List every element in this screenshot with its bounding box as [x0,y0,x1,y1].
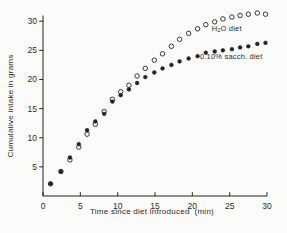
y-tick-label: 5 [32,162,37,172]
sacch-data-point [85,128,89,132]
x-tick-label: 0 [41,201,46,211]
sacch-data-point [119,93,123,97]
h2o-data-point [255,11,260,16]
sacch-data-point [143,75,147,79]
sacch-data-point [111,100,115,104]
h2o-data-point [127,83,132,88]
sacch-data-point [49,182,53,186]
y-tick-label: 25 [28,45,38,55]
sacch-data-point [127,88,131,92]
sacch-data-point [68,156,72,160]
h2o-data-point [195,27,200,32]
h2o-data-point [160,52,165,57]
sacch-data-point [178,60,182,64]
sacch-data-point [77,142,81,146]
x-tick-label: 30 [262,201,272,211]
x-tick-label: 5 [78,201,83,211]
axis-spines [43,16,267,197]
h2o-data-point [143,66,148,71]
sacch-data-point [238,46,242,50]
x-axis-title: Time since diet introduced (min) [90,207,214,216]
legend-h2o-rest: O diet [221,24,243,33]
sacch-data-point [152,71,156,75]
sacch-data-point [170,63,174,67]
y-tick-label: 10 [28,133,38,143]
chart-generated-layer: 05101520253051015202530 [28,11,272,211]
x-tick-label: 25 [225,201,235,211]
sacch-data-point [93,120,97,124]
sacch-data-point [102,112,106,116]
h2o-data-point [135,74,140,79]
h2o-data-point [186,31,191,36]
legend-sacch-diet: 0.10% sacch. diet [200,52,263,61]
y-axis-title: Cumulative intake in grams [6,55,15,158]
sacch-data-point [135,81,139,85]
h2o-data-point [85,132,90,137]
y-tick-label: 20 [28,74,38,84]
scatter-plot-figure: 05101520253051015202530 Time since diet … [0,0,287,233]
legend-h2o-diet: H2O diet [212,24,243,34]
h2o-data-point [204,22,209,27]
h2o-data-point [263,12,268,17]
h2o-data-point [177,37,182,42]
sacch-data-point [187,57,191,61]
y-tick-label: 30 [28,16,38,26]
y-tick-label: 15 [28,104,38,114]
sacch-data-point [59,170,63,174]
sacch-data-point [246,44,250,48]
h2o-data-point [246,12,251,17]
h2o-data-point [152,58,157,63]
sacch-data-point [255,42,259,46]
h2o-data-point [238,13,243,18]
h2o-data-point [221,17,226,22]
sacch-data-point [264,41,268,45]
sacch-data-point [161,67,165,71]
chart-canvas: 05101520253051015202530 Time since diet … [0,0,287,233]
h2o-data-point [169,44,174,49]
h2o-data-point [230,15,235,20]
sacch-data-point [230,47,234,51]
